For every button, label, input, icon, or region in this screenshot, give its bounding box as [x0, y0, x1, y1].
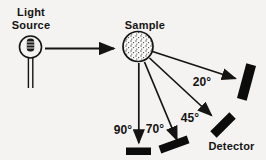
light-scattering-diagram: Light Source Sample — [0, 0, 266, 160]
detector-bar-90deg — [126, 148, 151, 156]
angle-label-20: 20° — [193, 75, 212, 89]
detector-bar-45deg — [210, 112, 235, 137]
detector-bar-70deg — [159, 136, 190, 154]
diagram-canvas: Light Source Sample — [0, 0, 266, 160]
light-source-label-line1: Light — [17, 6, 45, 18]
detector-label: Detector — [208, 140, 255, 152]
angle-label-90: 90° — [114, 123, 133, 137]
sample-circle — [123, 32, 153, 62]
light-source-label-line2: Source — [12, 19, 51, 31]
detector-bar-20deg — [237, 63, 256, 100]
sample-label: Sample — [125, 19, 165, 31]
lamp-lead-wires — [28, 58, 32, 88]
light-source-lamp-icon — [20, 36, 42, 88]
angle-label-70: 70° — [146, 122, 165, 136]
angle-label-45: 45° — [181, 111, 200, 125]
